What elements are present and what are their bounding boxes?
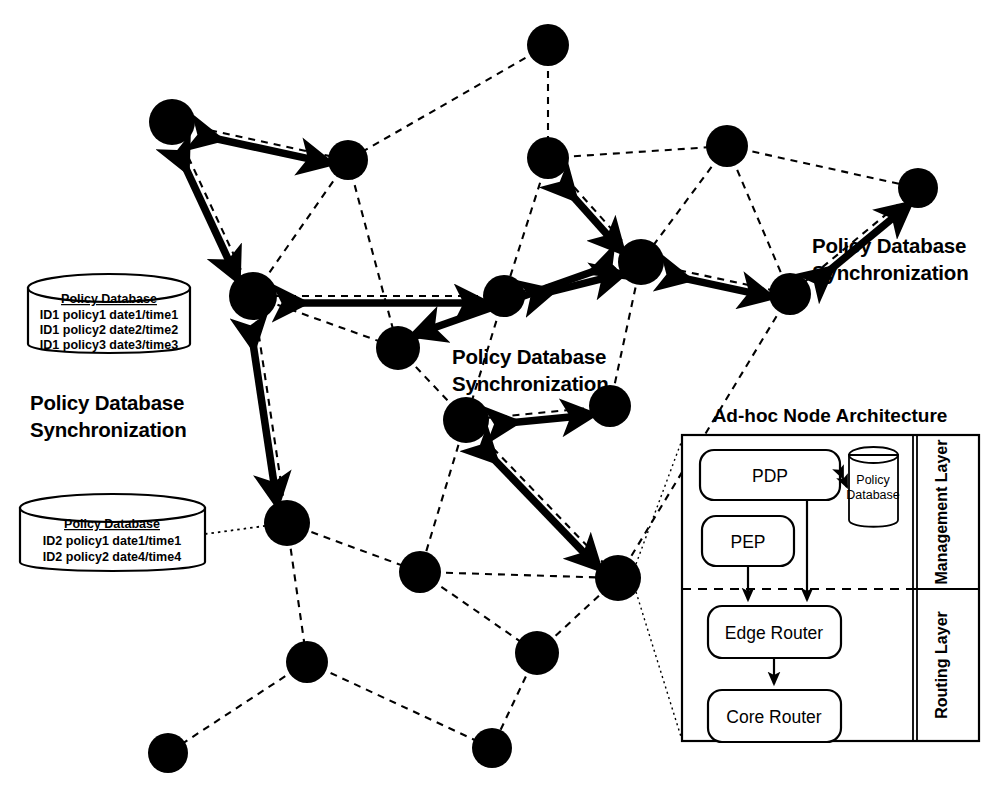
sync-label-right-line2: Synchronization: [812, 261, 968, 284]
topology-link: [420, 420, 466, 572]
topology-link: [420, 572, 618, 578]
network-node: [149, 99, 195, 145]
topology-link: [172, 122, 348, 160]
topology-link: [253, 160, 348, 296]
network-node: [286, 641, 328, 683]
diagram-canvas: Policy Database ID1 policy1 date1/time1 …: [0, 0, 988, 799]
policy-db-1-row-1: ID1 policy2 date2/time2: [40, 323, 178, 337]
topology-link: [466, 420, 618, 578]
sync-label-right-line1: Policy Database: [812, 234, 966, 257]
sync-label-left-line1: Policy Database: [30, 391, 184, 414]
arch-policy-db-line2: Database: [846, 488, 900, 502]
topology-link: [727, 146, 790, 294]
arch-policy-db-line1: Policy: [856, 473, 890, 487]
topology-link: [548, 146, 727, 158]
edge-router-label: Edge Router: [725, 623, 823, 643]
topology-link: [253, 296, 287, 523]
sync-label-center-line2: Synchronization: [452, 372, 608, 395]
sync-label-left-line2: Synchronization: [30, 418, 186, 441]
core-router-label: Core Router: [726, 707, 821, 727]
topology-link: [504, 158, 548, 296]
network-node: [443, 397, 489, 443]
policy-db-1-title: Policy Database: [61, 292, 157, 306]
sync-arrow: [205, 136, 316, 160]
sync-arrow: [565, 187, 613, 240]
topology-link: [348, 45, 548, 160]
topology-link: [307, 662, 492, 748]
management-layer-label: Management Layer: [933, 440, 950, 585]
sync-arrow: [485, 450, 588, 558]
sync-label-center-line1: Policy Database: [452, 345, 606, 368]
architecture-title: Ad-hoc Node Architecture: [713, 405, 948, 426]
sync-arrow: [502, 416, 578, 423]
policy-db-1-row-2: ID1 policy3 date3/time3: [40, 338, 178, 352]
topology-link: [172, 122, 253, 296]
network-node: [527, 137, 569, 179]
network-node: [769, 273, 811, 315]
network-node: [376, 326, 420, 370]
network-node: [515, 631, 559, 675]
network-node: [706, 125, 748, 167]
network-node: [898, 168, 938, 208]
network-node: [472, 728, 512, 768]
network-diagram-svg: Policy Database ID1 policy1 date1/time1 …: [0, 0, 988, 799]
network-node: [527, 24, 569, 66]
pdp-label: PDP: [752, 466, 788, 486]
topology-link: [348, 160, 398, 348]
network-node: [264, 500, 310, 546]
topology-link: [727, 146, 918, 188]
routing-layer-label: Routing Layer: [933, 611, 950, 719]
network-node: [229, 272, 277, 320]
sync-arrow: [251, 333, 274, 490]
topology-link: [168, 662, 307, 753]
network-node: [595, 555, 641, 601]
policy-db-2-title: Policy Database: [64, 517, 160, 531]
network-node: [399, 551, 441, 593]
policy-db-2-row-0: ID2 policy1 date1/time1: [43, 534, 181, 548]
sync-arrow: [180, 157, 231, 267]
pep-label: PEP: [730, 532, 765, 552]
network-node: [328, 140, 368, 180]
network-node: [483, 275, 525, 317]
network-node: [148, 733, 188, 773]
network-node: [618, 239, 664, 285]
policy-db-2-row-1: ID2 policy2 date4/time4: [43, 550, 181, 564]
policy-db-1-row-0: ID1 policy1 date1/time1: [40, 308, 178, 322]
